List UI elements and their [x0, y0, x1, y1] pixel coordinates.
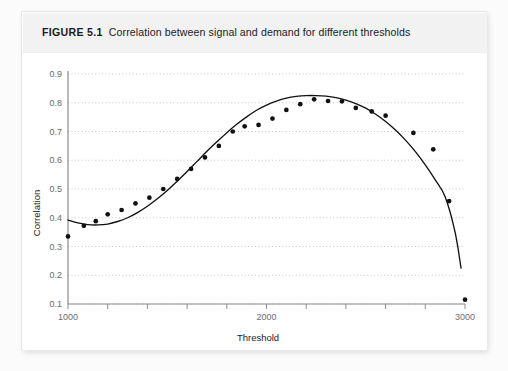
y-axis-title: Correlation	[31, 190, 42, 236]
data-point	[431, 147, 436, 152]
figure-number: FIGURE 5.1	[42, 26, 103, 38]
data-point	[93, 219, 98, 224]
x-tick-label: 2000	[256, 312, 276, 322]
data-point	[340, 99, 345, 104]
data-point	[203, 155, 208, 160]
fitted-curve-path	[68, 95, 461, 268]
y-tick-label: 0.5	[49, 184, 62, 194]
data-point	[383, 113, 388, 118]
page-root: FIGURE 5.1 Correlation between signal an…	[0, 0, 508, 371]
data-point	[463, 297, 468, 302]
data-point	[161, 187, 166, 192]
y-tick-label: 0.7	[49, 127, 62, 137]
plot-container: 0.10.20.30.40.50.60.70.80.9 100020003000…	[23, 53, 487, 350]
y-tick-label: 0.3	[49, 242, 62, 252]
x-tick-label: 3000	[455, 312, 475, 322]
data-point	[256, 123, 261, 128]
data-point	[326, 99, 331, 104]
x-axis-tick-labels: 100020003000	[58, 312, 475, 322]
correlation-scatter-chart: 0.10.20.30.40.50.60.70.80.9 100020003000…	[23, 53, 487, 350]
grid-lines	[68, 74, 465, 304]
y-tick-label: 0.4	[49, 213, 62, 223]
data-point	[353, 106, 358, 111]
data-point	[242, 124, 247, 129]
y-tick-label: 0.1	[49, 299, 62, 309]
figure-caption-text: Correlation between signal and demand fo…	[109, 26, 411, 38]
data-points	[66, 97, 468, 302]
data-point	[312, 97, 317, 102]
data-point	[82, 223, 87, 228]
data-point	[105, 212, 110, 217]
data-point	[369, 109, 374, 114]
data-point	[217, 144, 222, 149]
data-point	[133, 201, 138, 206]
figure-caption: FIGURE 5.1 Correlation between signal an…	[42, 26, 410, 38]
figure-caption-band: FIGURE 5.1 Correlation between signal an…	[23, 13, 487, 53]
axis-lines	[68, 71, 465, 304]
figure-card: FIGURE 5.1 Correlation between signal an…	[21, 11, 487, 350]
y-tick-label: 0.6	[49, 155, 62, 165]
data-point	[66, 234, 71, 239]
y-tick-label: 0.2	[49, 270, 62, 280]
y-axis-tick-labels: 0.10.20.30.40.50.60.70.80.9	[49, 69, 62, 309]
data-point	[175, 177, 180, 182]
data-point	[447, 199, 452, 204]
fitted-curve	[68, 95, 461, 268]
data-point	[230, 129, 235, 134]
x-axis-title: Threshold	[237, 332, 279, 343]
data-point	[189, 167, 194, 172]
x-axis-ticks	[68, 304, 465, 309]
x-tick-label: 1000	[58, 312, 78, 322]
data-point	[284, 108, 289, 113]
data-point	[298, 102, 303, 107]
data-point	[411, 131, 416, 136]
y-tick-label: 0.8	[49, 98, 62, 108]
data-point	[270, 116, 275, 121]
data-point	[147, 195, 152, 200]
data-point	[119, 208, 124, 213]
y-tick-label: 0.9	[49, 69, 62, 79]
